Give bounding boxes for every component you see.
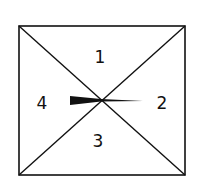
region-4-label: 4 [37,93,48,113]
spinner-diagram: 1 2 3 4 [0,0,199,188]
region-3-label: 3 [93,131,104,151]
region-2-label: 2 [157,93,168,113]
region-1-label: 1 [95,47,106,67]
